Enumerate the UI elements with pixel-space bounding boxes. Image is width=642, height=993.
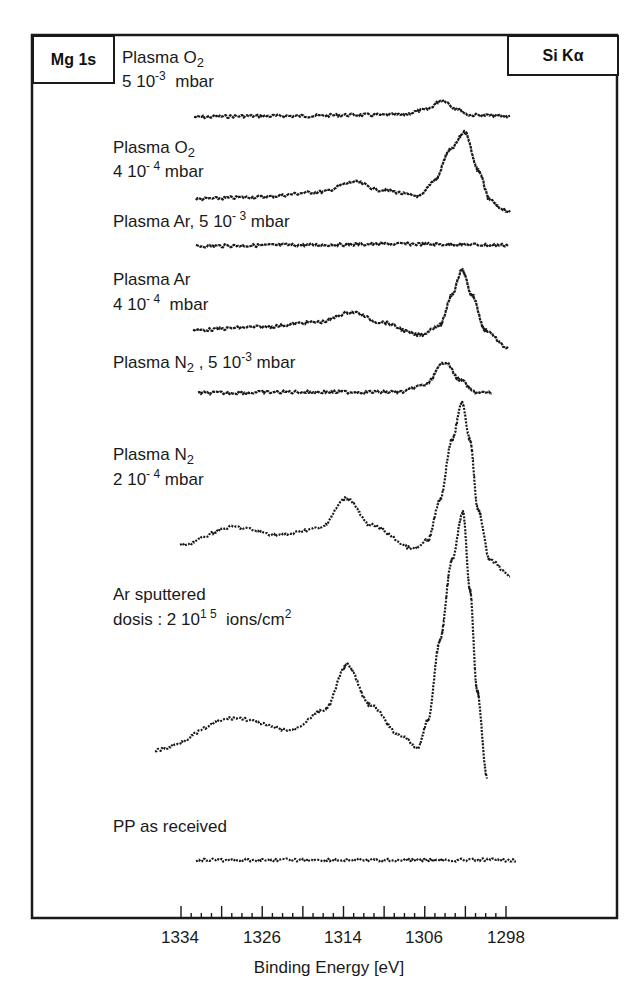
x-axis-ticks (181, 906, 506, 918)
label-ar-sputtered-line1: Ar sputtered (113, 585, 206, 605)
tag-mg-1s: Mg 1s (32, 35, 115, 84)
label-plasma-n2-2e-4-line1: Plasma N2 (113, 445, 194, 465)
tag-si-k-alpha-text: Si Kα (543, 47, 584, 64)
label-plasma-ar-5e-3: Plasma Ar, 5 10- 3 mbar (113, 212, 290, 232)
label-plasma-o2-4e-4-line2: 4 10- 4 mbar (113, 162, 204, 182)
x-tick-1306: 1306 (405, 928, 443, 948)
x-tick-1314: 1314 (324, 928, 362, 948)
label-plasma-n2-2e-4-line2: 2 10- 4 mbar (113, 470, 204, 490)
trace-3 (196, 242, 508, 247)
trace-7 (155, 511, 487, 778)
label-plasma-n2-5e-3: Plasma N2 , 5 10-3 mbar (113, 353, 295, 373)
label-plasma-o2-5e-3-line1: Plasma O2 (122, 48, 204, 68)
label-plasma-o2-5e-3-line2: 5 10-3 mbar (122, 72, 214, 92)
xps-spectra-plot (0, 0, 642, 993)
trace-8 (196, 858, 516, 861)
x-tick-1334: 1334 (161, 928, 199, 948)
tag-mg-1s-text: Mg 1s (51, 51, 96, 68)
trace-2 (196, 131, 510, 213)
tag-si-k-alpha: Si Kα (507, 35, 619, 76)
label-pp-as-received: PP as received (113, 817, 227, 837)
label-plasma-ar-4e-4-line2: 4 10- 4 mbar (113, 295, 208, 315)
trace-1 (194, 100, 510, 118)
label-ar-sputtered-line2: dosis : 2 101 5 ions/cm2 (113, 610, 291, 630)
label-plasma-o2-4e-4-line1: Plasma O2 (113, 138, 195, 158)
x-tick-1326: 1326 (243, 928, 281, 948)
label-plasma-ar-4e-4-line1: Plasma Ar (113, 270, 190, 290)
trace-6 (180, 402, 510, 577)
trace-4 (193, 269, 508, 348)
x-tick-1298: 1298 (487, 928, 525, 948)
x-axis-title: Binding Energy [eV] (254, 958, 404, 978)
